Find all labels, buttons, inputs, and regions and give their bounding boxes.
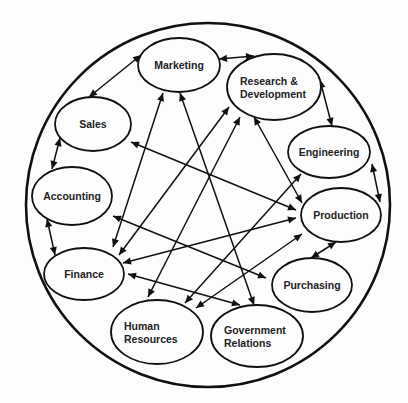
node-engineering: Engineering [288,126,370,178]
arrowhead-icon-to-marketing [179,93,186,102]
node-label-rnd: Research & [240,75,298,87]
arrowhead-icon-to-rnd [221,107,229,116]
node-production: Production [301,188,381,242]
node-label-hr: Resources [124,333,178,345]
edge-line-rnd-hr [148,117,240,297]
arrowhead-icon-to-govrel [248,296,255,305]
node-label-govrel: Government [224,324,286,336]
node-purchasing: Purchasing [272,258,352,312]
edge-line-rnd-finance [119,107,229,255]
edge-sales-production [131,142,296,211]
edge-line-accounting-purchasing [113,216,266,278]
node-accounting: Accounting [32,167,112,225]
arrowhead-icon-to-hr [196,300,205,308]
arrowhead-icon-to-finance [112,238,119,247]
arrowhead-icon-to-engineering [370,164,377,173]
arrowhead-icon-to-finance [119,246,127,255]
arrowhead-icon-to-finance [50,246,57,255]
arrowhead-icon-to-production [327,242,336,249]
edge-rnd-finance [119,107,229,255]
arrowhead-icon-to-purchasing [311,251,320,258]
node-sales: Sales [55,97,131,151]
nodes-layer: MarketingResearch &DevelopmentSalesEngin… [32,38,381,367]
edge-line-sales-production [131,142,296,210]
node-label-hr: Human [124,320,160,332]
edge-engineering-production [370,164,382,202]
edge-accounting-finance [45,219,57,255]
node-label-sales: Sales [79,118,107,130]
edge-accounting-purchasing [113,216,266,279]
edge-rnd-hr [148,117,240,297]
node-rnd: Research &Development [227,54,321,120]
department-network-diagram: MarketingResearch &DevelopmentSalesEngin… [0,0,408,403]
edge-production-finance [123,217,296,265]
arrowhead-icon-to-production [293,234,302,242]
arrowhead-icon-to-accounting [51,160,58,169]
edge-marketing-govrel [179,93,255,305]
node-marketing: Marketing [138,38,220,92]
node-hr: HumanResources [111,300,203,364]
node-label-engineering: Engineering [299,146,360,158]
node-label-purchasing: Purchasing [283,279,340,291]
node-label-govrel: Relations [224,337,271,349]
node-label-production: Production [313,209,368,221]
arrowhead-icon-to-marketing [157,93,164,102]
edge-sales-accounting [51,138,62,169]
node-label-marketing: Marketing [154,59,204,71]
node-finance: Finance [44,248,124,300]
node-label-finance: Finance [64,268,104,280]
edge-production-purchasing [311,242,336,258]
node-label-rnd: Development [240,88,306,100]
node-govrel: GovernmentRelations [211,305,303,367]
edge-line-marketing-govrel [180,93,254,305]
node-label-accounting: Accounting [43,190,101,202]
